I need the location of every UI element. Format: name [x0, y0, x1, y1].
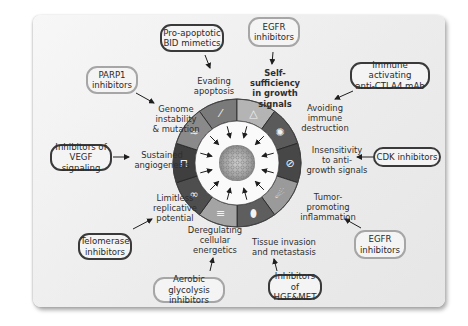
- hallmark-insensitivity-anti-growth: Insensitivity to anti- growth signals: [306, 145, 368, 176]
- hallmark-tissue-invasion-metastasis: Tissue invasion and metastasis: [248, 237, 320, 257]
- hallmark-limitless-replicative: Limitless replicative potential: [147, 193, 203, 224]
- tumor-icon: [219, 145, 255, 181]
- hallmark-deregulating-energetics: Deregulating cellular energetics: [185, 225, 245, 256]
- inflammation-icon: ☄: [275, 188, 285, 201]
- metastasis-cell-icon: ⬮: [250, 207, 257, 220]
- therapy-vegf-inhibitors: Inhibitors of VEGF signaling: [50, 144, 112, 171]
- no-entry-icon: ⊘: [285, 157, 294, 170]
- mitochondria-icon: ≡: [216, 207, 225, 220]
- hallmark-sustained-angiogenesis: Sustained angiogenesis: [133, 150, 191, 170]
- therapy-telomerase-inhibitors: Telomerase inhibitors: [78, 233, 132, 260]
- therapy-egfr-inhibitors-top: EGFR inhibitors: [248, 17, 300, 47]
- therapy-hgf-met-inhibitors: Inhibitors of HGF&MET: [268, 274, 322, 300]
- hallmark-genome-instability: Genome instability & mutation: [150, 104, 202, 135]
- hallmark-evading-apoptosis: Evading apoptosis: [184, 76, 244, 96]
- therapy-egfr-inhibitors-bottom: EGFR inhibitors: [354, 230, 406, 259]
- therapy-cdk-inhibitors: CDK inhibitors: [373, 147, 441, 167]
- therapy-aerobic-glycolysis-inhibitors: Aerobic glycolysis inhibitors: [153, 277, 225, 303]
- hallmark-tumor-promoting-inflammation: Tumor- promoting inflammation: [298, 192, 358, 223]
- therapy-parp1-inhibitors: PARP1 inhibitors: [86, 66, 138, 94]
- hallmark-avoiding-immune-destruction: Avoiding immune destruction: [297, 103, 353, 134]
- immune-cell-icon: ✺: [275, 126, 284, 139]
- therapy-anti-ctla4-mab: Immune activating anti-CTLA4 mAb: [350, 62, 430, 89]
- therapy-bid-mimetics: Pro-apoptotic BID mimetics: [160, 24, 224, 52]
